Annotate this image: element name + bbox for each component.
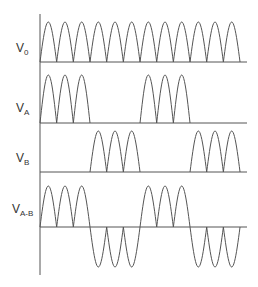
- label-v0: V0: [16, 42, 28, 57]
- waveform-vb: [40, 131, 247, 172]
- label-va: VA: [16, 102, 29, 117]
- wave-v0: [40, 22, 240, 62]
- label-vab: VA-B: [12, 203, 33, 218]
- waveform-v0: [40, 22, 247, 62]
- wave-va: [40, 75, 190, 123]
- waveform-va: [40, 75, 247, 123]
- waveform-vab: [40, 186, 247, 267]
- label-vb: VB: [16, 152, 29, 167]
- waveform-rows: [40, 22, 247, 267]
- waveform-diagram: [0, 0, 258, 287]
- wave-vb: [90, 131, 240, 172]
